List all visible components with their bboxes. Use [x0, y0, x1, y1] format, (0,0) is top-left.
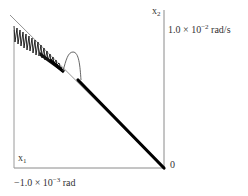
y-max-label: 1.0 × 10−2 rad/s: [168, 24, 231, 35]
x-min-unit: rad: [60, 177, 75, 188]
x-min-mantissa: −1.0 × 10: [14, 177, 53, 188]
x1-subscript: 1: [23, 157, 27, 165]
x2-subscript: 2: [157, 10, 161, 18]
y-max-unit: rad/s: [209, 24, 231, 35]
chattering-trajectory: [14, 26, 62, 68]
y-max-exponent: −2: [201, 23, 208, 31]
sliding-trajectory-main: [78, 80, 164, 168]
x-min-label: −1.0 × 10−3 rad: [14, 177, 76, 188]
x2-axis-label: x2: [152, 6, 161, 18]
origin-label: 0: [170, 160, 175, 170]
x1-axis-label: x1: [18, 153, 27, 165]
loop-excursion: [63, 52, 81, 80]
y-max-mantissa: 1.0 × 10: [168, 24, 201, 35]
